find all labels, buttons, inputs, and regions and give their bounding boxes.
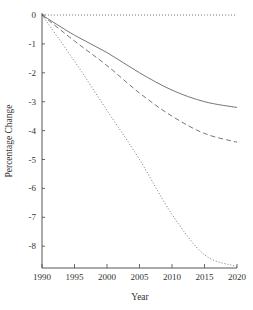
plot-lines — [42, 15, 237, 266]
y-tick-label: -2 — [29, 68, 37, 78]
y-axis-title: Percentage Change — [4, 104, 14, 177]
x-tick-label: 2015 — [196, 272, 215, 282]
x-tick-label: 2010 — [163, 272, 182, 282]
x-axis-ticks: 1990199520002005201020152020 — [33, 264, 247, 282]
line-chart: 1990199520002005201020152020 0-1-2-3-4-5… — [0, 0, 253, 310]
y-tick-label: 0 — [32, 10, 37, 20]
x-tick-label: 2020 — [228, 272, 247, 282]
y-tick-label: -5 — [29, 155, 37, 165]
y-tick-label: -4 — [29, 126, 37, 136]
y-tick-label: -6 — [29, 183, 37, 193]
y-tick-label: -1 — [29, 39, 37, 49]
x-tick-label: 2000 — [98, 272, 117, 282]
series-dashed — [42, 15, 237, 142]
y-tick-label: -8 — [29, 241, 37, 251]
series-solid — [42, 15, 237, 107]
y-axis-ticks: 0-1-2-3-4-5-6-7-8 — [29, 10, 46, 251]
x-tick-label: 1990 — [33, 272, 52, 282]
y-tick-label: -3 — [29, 97, 37, 107]
series-dotted — [42, 15, 237, 266]
axes — [42, 13, 237, 268]
y-tick-label: -7 — [29, 212, 37, 222]
x-axis-title: Year — [131, 292, 149, 302]
x-tick-label: 2005 — [131, 272, 150, 282]
x-tick-label: 1995 — [66, 272, 85, 282]
